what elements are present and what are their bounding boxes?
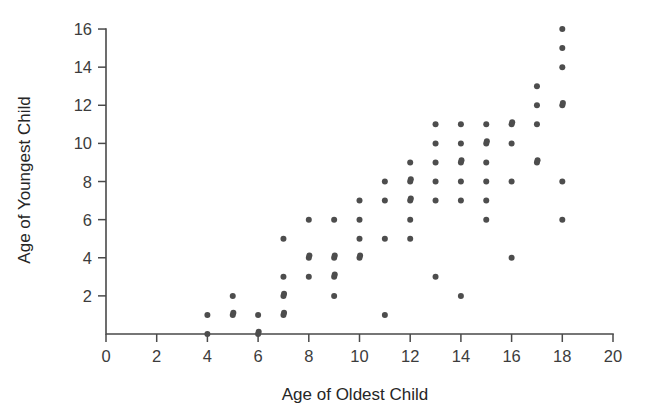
data-point: [306, 217, 312, 223]
data-point: [560, 100, 566, 106]
data-point: [559, 45, 565, 51]
data-point: [433, 140, 439, 146]
x-tick-label: 20: [604, 347, 622, 365]
data-point: [433, 159, 439, 165]
data-point: [230, 293, 236, 299]
plot-canvas: 02468101214161820 246810121416 Age of Ol…: [0, 0, 654, 411]
y-tick-labels: 246810121416: [74, 20, 92, 305]
data-point: [256, 329, 262, 335]
data-point: [306, 253, 312, 259]
data-point: [281, 291, 287, 297]
data-point: [509, 119, 515, 125]
data-point: [332, 253, 338, 259]
data-point: [408, 195, 414, 201]
x-tick-label: 4: [203, 347, 212, 365]
data-point: [483, 159, 489, 165]
data-point: [408, 176, 414, 182]
data-point: [280, 274, 286, 280]
data-point: [357, 253, 363, 259]
data-point: [509, 179, 515, 185]
data-point: [281, 310, 287, 316]
data-point: [255, 312, 261, 318]
x-tick-label: 18: [553, 347, 571, 365]
x-tick-label: 2: [152, 347, 161, 365]
x-tick-label: 10: [350, 347, 368, 365]
data-point: [382, 198, 388, 204]
data-point: [483, 198, 489, 204]
y-tick-label: 6: [83, 211, 92, 229]
data-point: [407, 159, 413, 165]
data-point: [382, 179, 388, 185]
x-tick-label: 12: [401, 347, 419, 365]
data-point: [357, 198, 363, 204]
data-point: [230, 310, 236, 316]
y-axis-title: Age of Youngest Child: [15, 96, 34, 263]
x-tick-label: 16: [502, 347, 520, 365]
data-point: [458, 140, 464, 146]
data-point: [280, 236, 286, 242]
data-point: [559, 26, 565, 32]
data-point: [459, 157, 465, 163]
x-tick-label: 6: [254, 347, 263, 365]
y-tick-label: 12: [74, 96, 92, 114]
x-tick-label: 14: [452, 347, 470, 365]
data-point: [483, 121, 489, 127]
data-point: [534, 121, 540, 127]
y-tick-label: 16: [74, 20, 92, 38]
data-point: [484, 138, 490, 144]
data-point: [509, 255, 515, 261]
tick-group: [98, 29, 613, 342]
x-tick-label: 0: [101, 347, 110, 365]
data-point: [509, 140, 515, 146]
y-tick-label: 10: [74, 134, 92, 152]
y-tick-label: 14: [74, 58, 92, 76]
data-point: [433, 274, 439, 280]
x-tick-label: 8: [304, 347, 313, 365]
data-point: [204, 312, 210, 318]
data-points-group: [204, 26, 566, 337]
y-tick-label: 8: [83, 173, 92, 191]
data-point: [458, 198, 464, 204]
data-point: [204, 331, 210, 337]
data-point: [357, 217, 363, 223]
data-point: [433, 121, 439, 127]
data-point: [332, 272, 338, 278]
data-point: [407, 217, 413, 223]
data-point: [534, 102, 540, 108]
data-point: [433, 198, 439, 204]
scatter-plot-figure: 02468101214161820 246810121416 Age of Ol…: [0, 0, 654, 411]
axis-spines: [106, 29, 613, 334]
axis-group: [106, 29, 613, 334]
data-point: [433, 179, 439, 185]
data-point: [559, 64, 565, 70]
data-point: [458, 179, 464, 185]
data-point: [559, 179, 565, 185]
y-tick-label: 2: [83, 287, 92, 305]
data-point: [534, 83, 540, 89]
data-point: [382, 236, 388, 242]
data-point: [458, 121, 464, 127]
data-point: [483, 217, 489, 223]
data-point: [382, 312, 388, 318]
data-point: [483, 179, 489, 185]
data-point: [407, 236, 413, 242]
data-point: [331, 293, 337, 299]
data-point: [559, 217, 565, 223]
data-point: [331, 217, 337, 223]
data-point: [458, 293, 464, 299]
data-point: [306, 274, 312, 280]
data-point: [535, 157, 541, 163]
data-point: [357, 236, 363, 242]
x-tick-labels: 02468101214161820: [101, 347, 622, 365]
y-tick-label: 4: [83, 249, 92, 267]
x-axis-title: Age of Oldest Child: [282, 385, 428, 404]
